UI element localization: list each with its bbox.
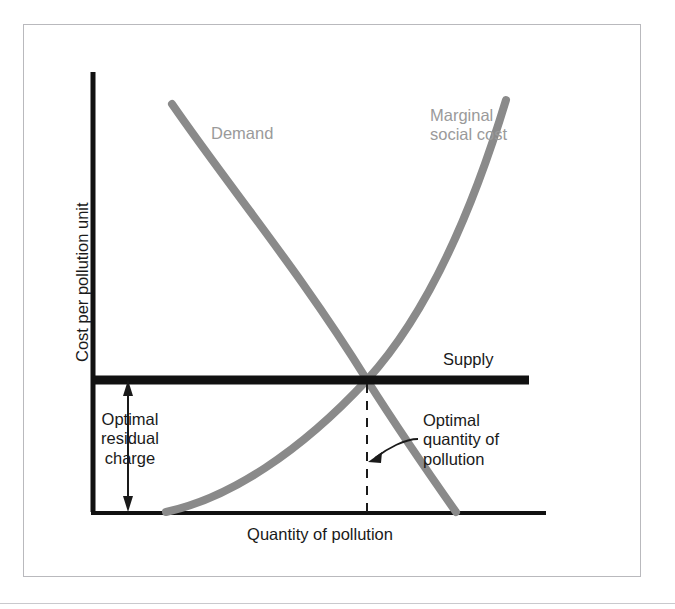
marginal-social-cost-curve-label: Marginal social cost (430, 106, 507, 145)
figure-root: Demand Marginal social cost Supply Optim… (0, 0, 675, 609)
optimal-quantity-of-pollution-annotation: Optimal quantity of pollution (423, 411, 499, 469)
demand-curve-label: Demand (211, 124, 273, 143)
y-axis-title: Cost per pollution unit (73, 202, 92, 362)
demand-curve (172, 104, 456, 512)
chart-plot-area (0, 0, 675, 609)
optimal-residual-charge-annotation: Optimal residual charge (90, 410, 170, 468)
supply-line-label: Supply (443, 350, 493, 369)
x-axis-title: Quantity of pollution (0, 525, 640, 544)
